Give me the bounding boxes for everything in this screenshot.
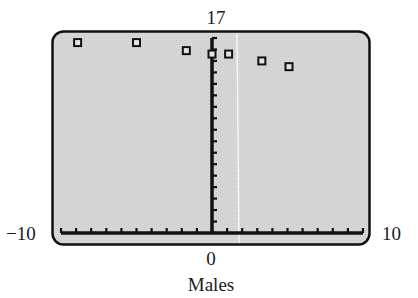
data-point-square: [258, 57, 265, 64]
x-min-label: −10: [6, 224, 36, 243]
data-point-square: [225, 51, 232, 58]
x-origin-label: 0: [196, 249, 226, 268]
data-point-square: [183, 47, 190, 54]
data-point-square: [74, 39, 81, 46]
data-point-square: [286, 63, 293, 70]
y-max-label: 17: [200, 8, 232, 27]
data-point-square: [209, 51, 216, 58]
x-max-label: 10: [382, 224, 401, 243]
x-axis-title: Males: [171, 275, 251, 294]
data-point-square: [133, 39, 140, 46]
